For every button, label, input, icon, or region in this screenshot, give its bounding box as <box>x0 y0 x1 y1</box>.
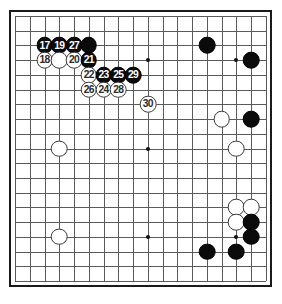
stone-move-number: 21 <box>84 55 94 65</box>
stone-black-17[interactable]: 17 <box>36 37 53 54</box>
grid-line-vertical <box>266 16 267 281</box>
stone-black[interactable] <box>243 229 260 246</box>
grid-line-vertical <box>89 16 90 281</box>
stone-move-number: 20 <box>69 55 79 65</box>
grid-line-horizontal <box>15 207 266 208</box>
grid-line-vertical <box>163 16 164 281</box>
stone-black-25[interactable]: 25 <box>110 67 127 84</box>
grid-line-horizontal <box>15 193 266 194</box>
grid-line-horizontal <box>15 60 266 61</box>
grid-line-horizontal <box>15 31 266 32</box>
stone-white-22[interactable]: 22 <box>81 67 98 84</box>
star-point <box>234 235 238 239</box>
stone-move-number: 17 <box>39 40 49 50</box>
stone-black-21[interactable]: 21 <box>81 52 98 69</box>
grid-line-horizontal <box>15 252 266 253</box>
star-point <box>57 147 61 151</box>
stones-layer: 1719271820212223252926242830 <box>11 12 270 285</box>
stone-white-28[interactable]: 28 <box>110 81 127 98</box>
grid-line-horizontal <box>15 90 266 91</box>
grid-line-horizontal <box>15 281 266 282</box>
star-points-layer <box>11 12 270 285</box>
star-point <box>146 58 150 62</box>
stone-black[interactable] <box>199 37 216 54</box>
stone-white[interactable] <box>51 52 68 69</box>
stone-move-number: 24 <box>98 84 108 94</box>
star-point <box>57 58 61 62</box>
stone-white[interactable] <box>228 214 245 231</box>
stone-move-number: 22 <box>84 70 94 80</box>
stone-black[interactable] <box>243 111 260 128</box>
grid-line-vertical <box>251 16 252 281</box>
stone-white-18[interactable]: 18 <box>36 52 53 69</box>
star-point <box>146 235 150 239</box>
stone-white[interactable] <box>228 140 245 157</box>
stone-black[interactable] <box>228 243 245 260</box>
stone-white-24[interactable]: 24 <box>95 81 112 98</box>
stone-white[interactable] <box>51 140 68 157</box>
grid-line-vertical <box>74 16 75 281</box>
grid-line-vertical <box>118 16 119 281</box>
stone-move-number: 28 <box>113 84 123 94</box>
grid-line-vertical <box>15 16 16 281</box>
stone-black[interactable] <box>243 214 260 231</box>
grid-line-horizontal <box>15 75 266 76</box>
stone-move-number: 23 <box>98 70 108 80</box>
star-point <box>234 58 238 62</box>
grid-line-horizontal <box>15 16 266 17</box>
grid-line-horizontal <box>15 149 266 150</box>
stone-move-number: 29 <box>128 70 138 80</box>
grid-line-horizontal <box>15 119 266 120</box>
stone-move-number: 27 <box>69 40 79 50</box>
grid-line-horizontal <box>15 237 266 238</box>
grid-line-vertical <box>59 16 60 281</box>
stone-white-20[interactable]: 20 <box>66 52 83 69</box>
grid-line-vertical <box>236 16 237 281</box>
stone-black-19[interactable]: 19 <box>51 37 68 54</box>
grid-line-horizontal <box>15 178 266 179</box>
go-diagram-container: 1719271820212223252926242830 <box>0 0 282 304</box>
grid-line-vertical <box>222 16 223 281</box>
stone-move-number: 18 <box>39 55 49 65</box>
grid-line-horizontal <box>15 222 266 223</box>
stone-white[interactable] <box>243 199 260 216</box>
grid-lines-layer <box>11 12 270 285</box>
stone-white-30[interactable]: 30 <box>140 96 157 113</box>
stone-black-23[interactable]: 23 <box>95 67 112 84</box>
stone-black[interactable] <box>81 37 98 54</box>
stone-move-number: 26 <box>84 84 94 94</box>
grid-line-horizontal <box>15 45 266 46</box>
stone-black-27[interactable]: 27 <box>66 37 83 54</box>
stone-white[interactable] <box>51 229 68 246</box>
star-point <box>146 147 150 151</box>
grid-line-horizontal <box>15 104 266 105</box>
grid-line-vertical <box>104 16 105 281</box>
grid-line-horizontal <box>15 163 266 164</box>
grid-line-vertical <box>133 16 134 281</box>
grid-line-horizontal <box>15 266 266 267</box>
grid-line-vertical <box>148 16 149 281</box>
stone-move-number: 30 <box>143 99 153 109</box>
stone-black-29[interactable]: 29 <box>125 67 142 84</box>
grid-line-vertical <box>177 16 178 281</box>
stone-white-26[interactable]: 26 <box>81 81 98 98</box>
star-point <box>234 147 238 151</box>
stone-black[interactable] <box>199 243 216 260</box>
grid-line-vertical <box>30 16 31 281</box>
star-point <box>57 235 61 239</box>
stone-move-number: 25 <box>113 70 123 80</box>
grid-line-horizontal <box>15 134 266 135</box>
go-board[interactable]: 1719271820212223252926242830 <box>9 10 272 287</box>
grid-line-vertical <box>45 16 46 281</box>
stone-move-number: 19 <box>54 40 64 50</box>
grid-line-vertical <box>207 16 208 281</box>
stone-black[interactable] <box>243 52 260 69</box>
stone-white[interactable] <box>228 199 245 216</box>
grid-line-vertical <box>192 16 193 281</box>
stone-white[interactable] <box>213 111 230 128</box>
